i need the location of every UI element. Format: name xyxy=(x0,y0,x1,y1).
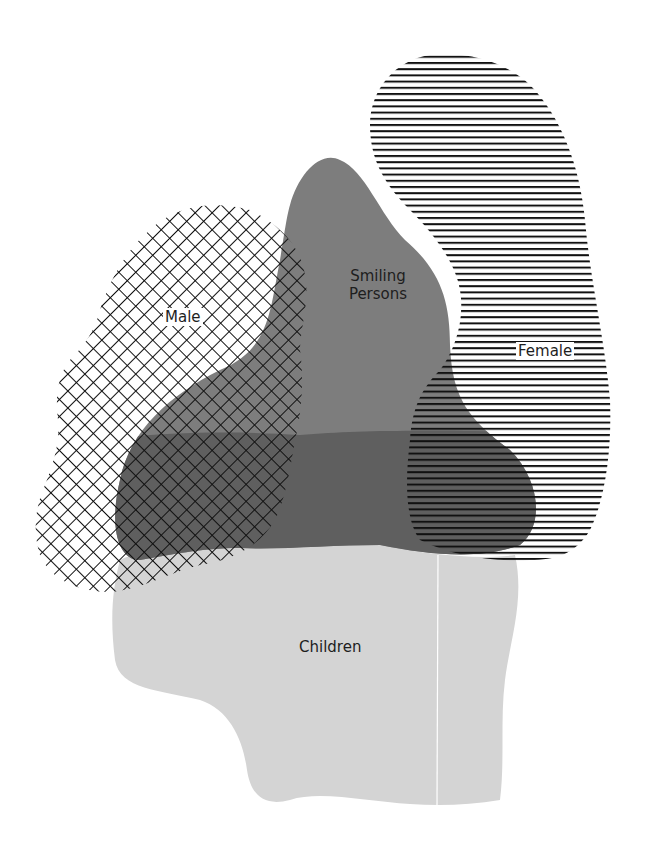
label-smiling-line1: Smiling xyxy=(338,267,418,285)
label-children: Children xyxy=(299,638,361,656)
label-smiling-line2: Persons xyxy=(338,285,418,303)
label-female: Female xyxy=(516,342,574,360)
label-smiling-persons: Smiling Persons xyxy=(338,267,418,303)
label-male: Male xyxy=(163,308,203,326)
set-children xyxy=(112,545,518,805)
venn-diagram xyxy=(0,0,647,843)
